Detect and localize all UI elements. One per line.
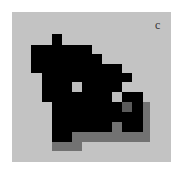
grid-cell-filled — [42, 73, 52, 82]
grid-cell-shadow-grey — [132, 132, 143, 142]
grid-cell-filled — [52, 45, 62, 54]
grid-cell-filled — [92, 73, 102, 82]
grid-cell-filled — [52, 73, 62, 82]
grid-cell-shadow-grey — [102, 132, 112, 142]
grid-cell-filled — [132, 102, 143, 112]
grid-cell-filled — [82, 112, 92, 122]
grid-cell-filled — [92, 102, 102, 112]
grid-cell-filled — [112, 64, 122, 73]
grid-cell-shadow-grey — [122, 132, 132, 142]
grid-cell-filled — [82, 64, 92, 73]
grid-cell-filled — [42, 92, 52, 102]
grid-cell-filled — [122, 112, 132, 122]
grid-cell-filled — [72, 92, 82, 102]
grid-cell-filled — [82, 54, 92, 64]
grid-cell-filled — [82, 122, 92, 132]
grid-cell-filled — [52, 102, 62, 112]
grid-cell-filled — [62, 112, 72, 122]
grid-cell-filled — [62, 45, 72, 54]
grid-cell-shadow-grey — [112, 132, 122, 142]
pixel-grid — [0, 0, 181, 169]
grid-cell-filled — [92, 64, 102, 73]
grid-cell-filled — [52, 132, 62, 142]
grid-cell-filled — [62, 132, 72, 142]
grid-cell-filled — [52, 54, 62, 64]
grid-cell-filled — [102, 82, 112, 92]
panel-label: c — [155, 19, 160, 31]
grid-cell-filled — [92, 54, 102, 64]
grid-cell-filled — [42, 54, 52, 64]
grid-cell-filled — [52, 112, 62, 122]
grid-cell-filled — [112, 112, 122, 122]
grid-cell-filled — [92, 82, 102, 92]
grid-cell-filled — [42, 64, 52, 73]
grid-cell-filled — [112, 73, 122, 82]
grid-cell-filled — [102, 112, 112, 122]
grid-cell-filled — [42, 45, 52, 54]
grid-cell-filled — [112, 102, 122, 112]
grid-cell-filled — [62, 73, 72, 82]
grid-cell-shadow-grey — [112, 122, 122, 132]
grid-cell-filled — [102, 122, 112, 132]
grid-cell-filled — [112, 82, 122, 92]
grid-cell-filled — [102, 64, 112, 73]
grid-cell-shadow-grey — [72, 132, 82, 142]
grid-cell-filled — [92, 112, 102, 122]
grid-cell-shadow-grey — [92, 132, 102, 142]
grid-cell-shadow-grey — [143, 112, 150, 122]
grid-cell-filled — [92, 122, 102, 132]
grid-cell-filled — [92, 92, 102, 102]
grid-cell-filled — [122, 73, 132, 82]
grid-cell-filled — [52, 82, 62, 92]
grid-cell-filled — [132, 112, 143, 122]
grid-cell-shadow-grey — [143, 102, 150, 112]
grid-cell-shadow-grey — [62, 142, 72, 151]
grid-cell-filled — [62, 82, 72, 92]
grid-cell-filled — [72, 73, 82, 82]
grid-cell-filled — [62, 102, 72, 112]
grid-cell-filled — [31, 45, 42, 54]
grid-cell-filled — [52, 122, 62, 132]
grid-cell-filled — [62, 64, 72, 73]
grid-cell-hole — [112, 92, 122, 102]
grid-cell-filled — [62, 92, 72, 102]
grid-cell-filled — [82, 82, 92, 92]
grid-cell-shadow-grey — [52, 142, 62, 151]
grid-cell-filled — [72, 112, 82, 122]
grid-cell-filled — [72, 54, 82, 64]
grid-cell-filled — [72, 122, 82, 132]
grid-cell-filled — [52, 64, 62, 73]
grid-cell-filled — [62, 122, 72, 132]
grid-cell-filled — [42, 82, 52, 92]
grid-cell-filled — [132, 122, 143, 132]
grid-cell-filled — [82, 102, 92, 112]
grid-cell-filled — [122, 122, 132, 132]
grid-cell-filled — [122, 92, 132, 102]
grid-cell-filled — [52, 92, 62, 102]
grid-cell-filled — [102, 73, 112, 82]
grid-cell-filled — [82, 45, 92, 54]
grid-cell-dark-grey — [122, 102, 132, 112]
grid-cell-filled — [102, 102, 112, 112]
grid-cell-filled — [132, 92, 143, 102]
grid-cell-filled — [72, 64, 82, 73]
grid-cell-filled — [72, 102, 82, 112]
grid-cell-filled — [31, 64, 42, 73]
grid-cell-filled — [52, 34, 62, 45]
grid-cell-shadow-grey — [82, 132, 92, 142]
grid-cell-filled — [31, 54, 42, 64]
grid-cell-hole — [72, 82, 82, 92]
grid-cell-shadow-grey — [143, 132, 150, 142]
grid-cell-shadow-grey — [143, 122, 150, 132]
grid-cell-filled — [82, 73, 92, 82]
grid-cell-filled — [82, 92, 92, 102]
grid-cell-filled — [72, 45, 82, 54]
grid-cell-filled — [102, 92, 112, 102]
grid-cell-filled — [62, 54, 72, 64]
grid-cell-shadow-grey — [72, 142, 82, 151]
